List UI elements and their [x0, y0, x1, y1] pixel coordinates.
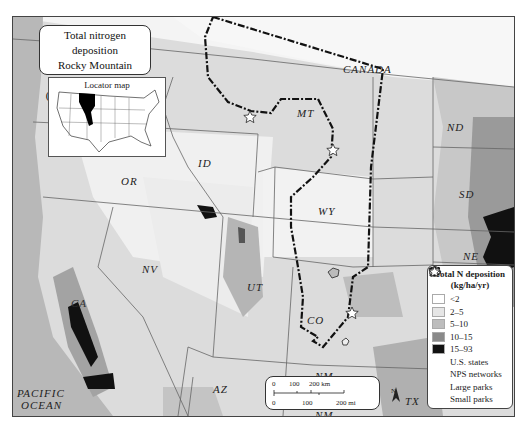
label-sd: SD: [459, 188, 474, 200]
legend-item: 15–93: [432, 343, 508, 356]
state-outline-icon: [432, 356, 445, 367]
label-wy: WY: [318, 205, 335, 217]
network-boundary-icon: [432, 369, 445, 380]
legend-item: U.S. states: [432, 356, 508, 369]
label-tx: TX: [405, 395, 420, 407]
legend-item: 5–10: [432, 318, 508, 331]
park-outline-icon: [432, 381, 445, 392]
star-icon: [432, 394, 445, 405]
swatch-10-15: [432, 332, 445, 342]
label-nd: ND: [447, 121, 464, 133]
legend-item: <2: [432, 293, 508, 306]
us-outline-icon: [49, 78, 165, 156]
legend-item: NPS networks: [432, 368, 508, 381]
swatch-15-93: [432, 344, 445, 354]
label-ca: CA: [71, 297, 87, 309]
scale-bar: 0 100 200 km 0 100 200 mi: [265, 376, 380, 410]
label-ocean: OCEAN: [21, 399, 62, 411]
label-ne: NE: [463, 250, 479, 262]
legend-item: 2–5: [432, 306, 508, 319]
label-nm-bottom: NM: [315, 409, 334, 417]
legend-item: 10–15: [432, 331, 508, 344]
title-line-1: Total nitrogen deposition: [40, 28, 150, 58]
north-arrow: N: [391, 387, 396, 395]
swatch-5-10: [432, 319, 445, 329]
label-canada: CANADA: [343, 63, 392, 75]
north-arrow-icon: [391, 387, 401, 403]
locator-map: Locator map: [48, 77, 166, 157]
label-nv: NV: [142, 263, 158, 275]
label-id: ID: [198, 157, 212, 169]
label-ut: UT: [247, 281, 263, 293]
legend-item: Small parks: [432, 393, 508, 406]
map-frame: CANADA MT ND ID OR SD WY NE NV UT CO CA …: [12, 16, 515, 417]
label-az: AZ: [213, 383, 228, 395]
swatch-lt2: [432, 294, 445, 304]
map-title: Total nitrogen deposition Rocky Mountain…: [39, 25, 151, 75]
swatch-2-5: [432, 307, 445, 317]
legend-units: (kg/ha/yr): [432, 280, 508, 291]
legend-title: Total N deposition: [432, 269, 508, 280]
label-mt: MT: [297, 107, 314, 119]
label-or: OR: [121, 175, 138, 187]
label-pacific: PACIFIC: [17, 387, 65, 399]
legend: Total N deposition (kg/ha/yr) <2 2–5 5–1…: [427, 265, 513, 409]
legend-item: Large parks: [432, 381, 508, 394]
label-co: CO: [307, 314, 324, 326]
